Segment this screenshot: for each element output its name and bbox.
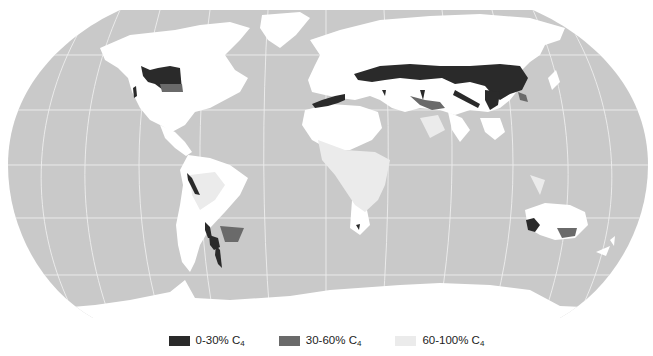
legend-label: 0-30% C4 [196,334,245,348]
world-map [0,0,653,326]
legend-item-c4-0-30: 0-30% C4 [169,334,245,348]
legend-swatch-dark [169,336,190,346]
legend-swatch-light [395,336,416,346]
legend-item-c4-30-60: 30-60% C4 [279,334,362,348]
map-svg [0,0,653,326]
legend-label: 60-100% C4 [422,334,484,348]
legend-swatch-mid [279,336,300,346]
legend-item-c4-60-100: 60-100% C4 [395,334,484,348]
legend-label: 30-60% C4 [306,334,362,348]
legend: 0-30% C4 30-60% C4 60-100% C4 [0,330,653,352]
